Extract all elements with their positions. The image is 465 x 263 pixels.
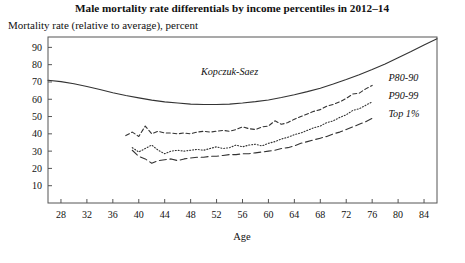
y-tick-label: 90 [32, 42, 42, 53]
x-tick-label: 84 [419, 209, 429, 220]
mortality-chart: Male mortality rate differentials by inc… [0, 0, 465, 263]
chart-subtitle: Mortality rate (relative to average), pe… [8, 19, 198, 32]
y-tick-label: 20 [32, 163, 42, 174]
y-tick-label: 60 [32, 94, 42, 105]
x-tick-label: 80 [393, 209, 403, 220]
series-label-p80-90: P80-90 [387, 72, 418, 83]
x-tick-label: 64 [289, 209, 299, 220]
x-tick-label: 56 [238, 209, 248, 220]
x-tick-label: 72 [341, 209, 351, 220]
y-tick-label: 10 [32, 180, 42, 191]
series-label-kopczuk-saez: Kopczuk-Saez [200, 66, 258, 77]
y-tick-label: 50 [32, 111, 42, 122]
y-tick-label: 80 [32, 59, 42, 70]
x-tick-label: 32 [82, 209, 92, 220]
x-tick-label: 48 [186, 209, 196, 220]
chart-background [0, 0, 465, 263]
x-tick-label: 36 [108, 209, 118, 220]
chart-title: Male mortality rate differentials by inc… [75, 2, 389, 14]
y-tick-label: 70 [32, 76, 42, 87]
y-tick-label: 40 [32, 128, 42, 139]
x-tick-label: 28 [56, 209, 66, 220]
x-tick-label: 40 [134, 209, 144, 220]
x-tick-label: 52 [212, 209, 222, 220]
x-axis-label: Age [233, 231, 251, 242]
x-tick-label: 60 [263, 209, 273, 220]
series-label-p90-99: P90-99 [387, 90, 418, 101]
x-tick-label: 44 [160, 209, 170, 220]
x-tick-label: 76 [367, 209, 377, 220]
series-label-top-1: Top 1% [388, 108, 419, 119]
x-tick-label: 68 [315, 209, 325, 220]
y-tick-label: 30 [32, 146, 42, 157]
